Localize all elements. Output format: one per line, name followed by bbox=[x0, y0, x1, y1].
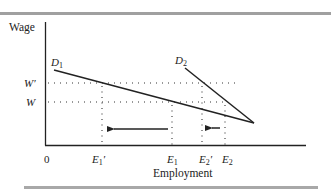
curve-label-d2: D2 bbox=[175, 55, 187, 68]
employment-label-e1: E1 bbox=[167, 154, 178, 167]
origin-label: 0 bbox=[44, 154, 50, 165]
curve-label-d1: D1 bbox=[51, 57, 63, 70]
employment-label-e2-prime: E2′ bbox=[199, 154, 212, 167]
wage-label-w: W bbox=[26, 97, 35, 108]
x-axis-label: Employment bbox=[153, 168, 212, 180]
demand-curve-d2 bbox=[185, 68, 254, 123]
employment-label-e2: E2 bbox=[222, 154, 233, 167]
demand-curve-d1 bbox=[54, 70, 254, 123]
wage-label-w-prime: W′ bbox=[24, 78, 36, 89]
employment-label-e1-prime: E1′ bbox=[92, 154, 105, 167]
y-axis-label: Wage bbox=[9, 22, 35, 34]
